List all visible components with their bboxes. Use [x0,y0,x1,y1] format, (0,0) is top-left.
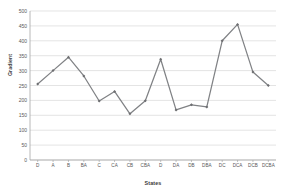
line-chart: Gradient States 050100150200250300350400… [0,0,282,196]
data-point-marker [205,105,208,108]
data-point-marker [175,108,178,111]
gridlines [30,11,276,160]
plot-area [0,0,282,196]
data-point-marker [190,103,193,106]
data-markers [36,23,270,115]
